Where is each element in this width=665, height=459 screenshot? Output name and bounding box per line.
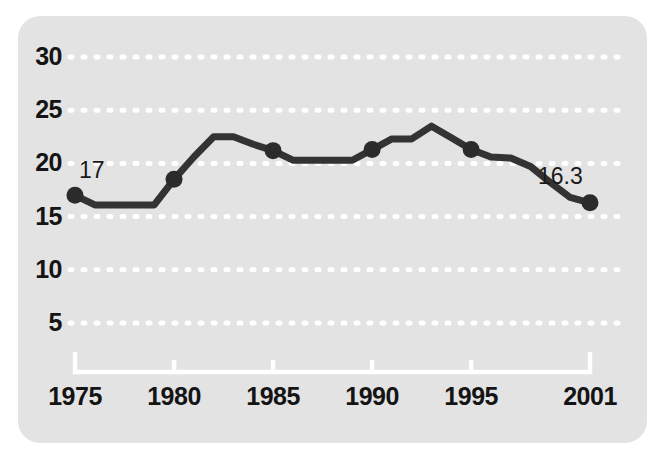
gridlines-group	[70, 57, 620, 323]
data-marker-1975	[67, 187, 84, 204]
x-tick-label-1975: 1975	[30, 382, 120, 411]
data-marker-1990	[364, 141, 381, 158]
x-tick-label-1985: 1985	[228, 382, 318, 411]
x-axis-group	[75, 352, 590, 372]
point-label-16-3: 16.3	[538, 163, 583, 190]
y-tick-label-15: 15	[14, 202, 62, 231]
data-marker-2001	[582, 194, 599, 211]
x-tick-label-1995: 1995	[426, 382, 516, 411]
x-tick-label-1980: 1980	[129, 382, 219, 411]
y-tick-label-20: 20	[14, 148, 62, 177]
x-tick-label-2001: 2001	[545, 382, 635, 411]
data-marker-1995	[463, 141, 480, 158]
y-tick-label-5: 5	[14, 308, 62, 337]
x-axis-line	[75, 352, 590, 372]
chart-figure: 30252015105 197519801985199019952001 171…	[0, 0, 665, 459]
point-label-17: 17	[79, 157, 105, 184]
x-tick-label-1990: 1990	[327, 382, 417, 411]
y-tick-label-10: 10	[14, 255, 62, 284]
data-marker-1980	[166, 171, 183, 188]
data-marker-1985	[265, 142, 282, 159]
data-marker-group	[67, 141, 599, 211]
y-tick-label-30: 30	[14, 42, 62, 71]
y-tick-label-25: 25	[14, 95, 62, 124]
